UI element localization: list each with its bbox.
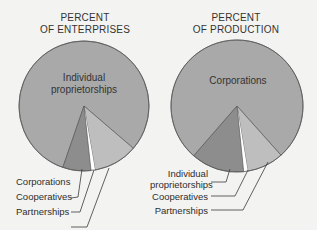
leader-line-cooperatives [71, 170, 94, 212]
label-cooperatives-right: Cooperatives [150, 191, 208, 202]
pie-production [171, 40, 303, 172]
leader-line-corporations [71, 169, 82, 198]
leader-line-cooperatives-right [211, 170, 248, 196]
label-individual-proprietorships-left: Individual proprietorships [42, 72, 126, 96]
label-corporations-left: Corporations [16, 176, 70, 187]
label-corporations-right: Corporations [196, 75, 280, 87]
label-partnerships-right: Partnerships [150, 205, 208, 216]
individual-line1: Individual [150, 168, 208, 179]
inner-label-line2: proprietorships [42, 84, 126, 96]
label-individual-proprietorships-right: Individual proprietorships [150, 168, 208, 190]
pie-chart-figure: PERCENT OF ENTERPRISES PERCENT OF PRODUC… [0, 0, 317, 230]
individual-line2: proprietorships [150, 179, 208, 190]
label-partnerships-left: Partnerships [16, 206, 69, 217]
label-cooperatives-left: Cooperatives [16, 191, 72, 202]
inner-label-line1: Individual [42, 72, 126, 84]
leader-lines-left [71, 168, 109, 227]
pie-enterprises [19, 41, 149, 171]
